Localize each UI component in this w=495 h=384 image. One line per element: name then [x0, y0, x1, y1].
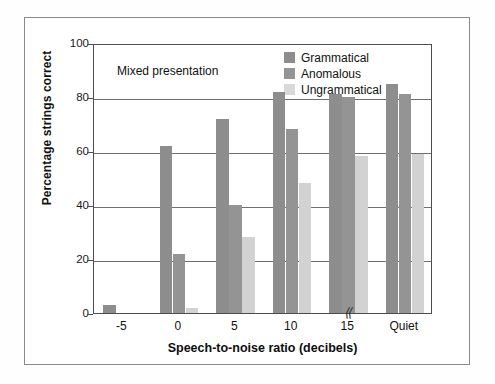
figure-container: Percentage strings correct 020406080100 … [0, 0, 495, 384]
legend-item: Grammatical [284, 50, 382, 65]
y-axis-tick-label: 100 [55, 38, 89, 50]
gridline [94, 261, 431, 262]
y-axis-tick-label: 20 [55, 254, 89, 266]
gridline [94, 207, 431, 208]
y-axis-tick-labels: 020406080100 [55, 36, 89, 322]
bar-ungrammatical-quiet [412, 154, 425, 313]
legend-label: Anomalous [301, 67, 361, 81]
legend-swatch-icon [284, 84, 295, 95]
x-axis-title: Speech-to-noise ratio (decibels) [93, 341, 432, 355]
bar-anomalous-15 [342, 97, 355, 313]
y-axis-tick-mark [87, 152, 93, 153]
y-axis-tick-mark [87, 98, 93, 99]
y-axis-tick-mark [87, 44, 93, 45]
chart-legend: Grammatical Anomalous Ungrammatical [284, 50, 382, 98]
bar-grammatical-15 [329, 94, 342, 313]
legend-swatch-icon [284, 52, 295, 63]
y-axis-tick-mark [87, 260, 93, 261]
legend-label: Grammatical [301, 51, 369, 65]
bar-ungrammatical-0 [186, 308, 199, 313]
bar-ungrammatical-10 [299, 183, 312, 313]
y-axis-tick-label: 40 [55, 200, 89, 212]
bar-anomalous-quiet [399, 94, 412, 313]
y-axis-tick-label: 0 [55, 308, 89, 320]
bar-anomalous-0 [173, 254, 186, 313]
plot-annotation: Mixed presentation [117, 64, 218, 78]
legend-item: Anomalous [284, 66, 382, 81]
gridline [94, 153, 431, 154]
bar-grammatical-0 [160, 146, 173, 313]
x-axis-tick-label: Quiet [369, 319, 439, 333]
gridline [94, 99, 431, 100]
y-axis-tick-mark [87, 314, 93, 315]
bar-grammatical-5 [216, 119, 229, 313]
bar-anomalous-10 [286, 129, 299, 313]
bar-grammatical-quiet [386, 84, 399, 314]
bar-ungrammatical-15 [355, 156, 368, 313]
legend-swatch-icon [284, 68, 295, 79]
bar-ungrammatical-5 [242, 237, 255, 313]
y-axis-tick-mark [87, 206, 93, 207]
bar-grammatical-10 [273, 92, 286, 313]
bar-anomalous-5 [229, 205, 242, 313]
y-axis-tick-label: 80 [55, 92, 89, 104]
plot-area: Mixed presentation Grammatical Anomalous… [93, 44, 432, 314]
bar-grammatical--5 [103, 305, 116, 313]
y-axis-title: Percentage strings correct [40, 13, 54, 243]
y-axis-tick-label: 60 [55, 146, 89, 158]
